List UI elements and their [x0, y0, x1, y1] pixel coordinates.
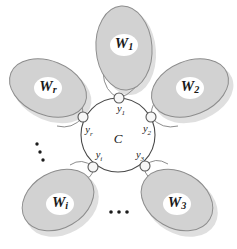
ellipsis-dot: [109, 210, 113, 214]
ellipsis-dot: [41, 158, 44, 161]
ellipsis-dot: [117, 210, 121, 214]
core-label-c: C: [114, 131, 123, 146]
vertex-dot-yr: [78, 112, 88, 122]
horizontal-ellipsis: [109, 210, 129, 214]
vertex-dot-y1: [114, 93, 124, 103]
vertex-dot-y2: [146, 112, 156, 122]
vertex-dot-yi: [88, 162, 98, 172]
ellipsis-dot: [35, 142, 38, 145]
graph-diagram-svg: W1 W2 W3 Wi Wr C: [0, 0, 237, 249]
vertex-dot-y3: [140, 161, 150, 171]
ellipsis-dot: [38, 150, 41, 153]
figure-container: W1 W2 W3 Wi Wr C: [0, 0, 237, 249]
vertical-ellipsis: [35, 142, 44, 161]
ellipsis-dot: [125, 210, 129, 214]
